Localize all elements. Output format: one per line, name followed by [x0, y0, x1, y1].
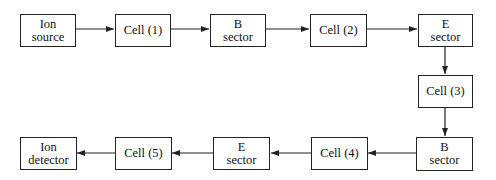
- e-sector-1-box: E sector: [418, 14, 473, 47]
- cell-3-box: Cell (3): [418, 75, 473, 108]
- e-sector-2-box: E sector: [213, 137, 270, 170]
- ion-source-box: Ion source: [20, 14, 76, 47]
- cell-1-box: Cell (1): [115, 14, 171, 47]
- b-sector-2-box: B sector: [416, 137, 473, 171]
- cell-2-box: Cell (2): [310, 14, 367, 47]
- cell-4-box: Cell (4): [311, 137, 368, 170]
- cell-5-box: Cell (5): [115, 137, 172, 170]
- b-sector-1-box: B sector: [210, 14, 266, 47]
- ion-detector-box: Ion detector: [20, 137, 77, 170]
